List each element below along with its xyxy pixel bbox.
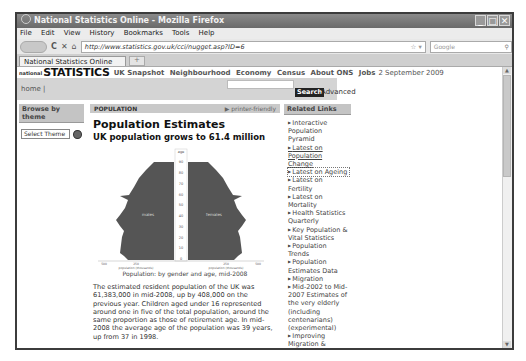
nav-about-ons[interactable]: About ONS	[311, 69, 354, 77]
females-area	[188, 162, 246, 260]
svg-text:80: 80	[179, 171, 183, 175]
related-link[interactable]: Population Trends	[288, 242, 349, 258]
svg-text:age: age	[178, 150, 185, 154]
related-link[interactable]: Interactive Population Pyramid	[288, 119, 349, 144]
related-link[interactable]: Population Estimates Data	[288, 258, 349, 274]
svg-text:500: 500	[101, 262, 107, 266]
home-icon[interactable]: ⌂	[72, 42, 77, 51]
related-link[interactable]: Latest on Population Change	[288, 144, 349, 169]
site-search-input[interactable]	[227, 80, 294, 89]
related-link[interactable]: Health Statistics Quarterly	[288, 209, 349, 225]
back-forward-button[interactable]	[20, 41, 47, 53]
menu-view[interactable]: View	[64, 29, 81, 37]
related-link[interactable]: Migration	[288, 275, 349, 283]
related-link[interactable]: Latest on Fertility	[288, 176, 349, 192]
svg-text:500: 500	[255, 262, 261, 266]
web-search-box[interactable]: Google ⚲	[430, 41, 512, 53]
url-bar[interactable]: http://www.statistics.gov.uk/cci/nugget.…	[81, 41, 426, 53]
title-bar: National Statistics Online - Mozilla Fir…	[17, 14, 512, 28]
scrollbar-thumb[interactable]	[503, 75, 511, 177]
window-title: National Statistics Online - Mozilla Fir…	[34, 16, 224, 25]
nav-neighbourhood[interactable]: Neighbourhood	[170, 69, 231, 77]
site-date: 2 September 2009	[378, 69, 443, 77]
theme-select[interactable]: Select Theme	[21, 129, 70, 139]
svg-text:0: 0	[180, 257, 182, 261]
chart-caption: Population: by gender and age, mid-2008	[90, 270, 280, 277]
browse-by-theme-heading: Browse by theme	[19, 104, 84, 123]
menu-tools[interactable]: Tools	[172, 29, 189, 37]
home-link[interactable]: home |	[21, 85, 45, 93]
bookmark-star-icon[interactable]: ☆ ▾	[411, 42, 425, 52]
reload-icon[interactable]: C	[51, 42, 57, 51]
population-pyramid-chart: age 908070 605040 302010 0 males females…	[96, 145, 266, 270]
menu-file[interactable]: File	[20, 29, 32, 37]
right-column: Related Links Interactive Population Pyr…	[284, 104, 351, 348]
printer-friendly-link[interactable]: ▶ printer-friendly	[225, 104, 276, 113]
page-subtitle: UK population grows to 61.4 million	[93, 132, 280, 142]
svg-text:30: 30	[179, 225, 183, 229]
search-placeholder: Google	[434, 42, 455, 52]
logo-small: national	[19, 70, 42, 76]
magnifier-icon[interactable]: ⚲	[505, 42, 511, 52]
svg-text:40: 40	[179, 214, 183, 218]
menu-history[interactable]: History	[90, 29, 115, 37]
tab-national-statistics[interactable]: National Statistics Online	[19, 56, 126, 66]
related-links-heading: Related Links	[284, 104, 351, 115]
menu-help[interactable]: Help	[199, 29, 215, 37]
stop-icon[interactable]: ✕	[61, 42, 68, 51]
males-area	[116, 162, 174, 260]
svg-text:70: 70	[179, 182, 183, 186]
navigation-toolbar: C ✕ ⌂ http://www.statistics.gov.uk/cci/n…	[17, 39, 512, 54]
new-tab-button[interactable]: +	[129, 56, 145, 66]
page-title: Population Estimates	[93, 118, 280, 131]
menu-bar: File Edit View History Bookmarks Tools H…	[17, 28, 512, 39]
site-header: national STATISTICS UK Snapshot Neighbou…	[17, 67, 503, 78]
site-nav: UK Snapshot Neighbourhood Economy Census…	[114, 69, 379, 77]
related-link[interactable]: Improving Migration & Population Statist…	[288, 332, 349, 348]
browser-window: National Statistics Online - Mozilla Fir…	[15, 12, 514, 350]
left-column: Browse by theme Select Theme	[19, 104, 84, 139]
svg-text:population (thousands): population (thousands)	[209, 266, 244, 270]
maximize-button[interactable]: □	[487, 15, 498, 26]
section-label: POPULATION	[94, 104, 137, 113]
minimize-button[interactable]: _	[475, 15, 486, 26]
svg-text:10: 10	[179, 246, 183, 250]
svg-text:females: females	[206, 212, 222, 217]
go-button[interactable]	[73, 130, 82, 139]
related-links-list: Interactive Population Pyramid Latest on…	[284, 115, 351, 348]
tab-bar: National Statistics Online +	[17, 54, 512, 67]
advanced-search-link[interactable]: Advanced	[321, 88, 356, 96]
nav-census[interactable]: Census	[277, 69, 305, 77]
body-paragraph: The estimated resident population of the…	[93, 283, 278, 341]
site-search-button[interactable]: Search	[295, 88, 324, 97]
svg-text:males: males	[142, 212, 154, 217]
svg-text:50: 50	[179, 203, 183, 207]
nav-uk-snapshot[interactable]: UK Snapshot	[114, 69, 165, 77]
related-link[interactable]: Key Population & Vital Statistics	[288, 226, 349, 242]
section-bar: POPULATION ▶ printer-friendly	[90, 104, 280, 113]
firefox-icon	[21, 14, 31, 24]
related-link[interactable]: Latest on Ageing	[288, 168, 349, 176]
menu-edit[interactable]: Edit	[41, 29, 55, 37]
main-column: POPULATION ▶ printer-friendly Population…	[90, 104, 280, 341]
related-link[interactable]: Mid-2002 to Mid-2007 Estimates of the ve…	[288, 283, 349, 332]
svg-text:population (thousands): population (thousands)	[119, 266, 154, 270]
svg-text:60: 60	[179, 193, 183, 197]
related-link[interactable]: Latest on Mortality	[288, 193, 349, 209]
nav-jobs[interactable]: Jobs	[359, 69, 376, 77]
page-content: national STATISTICS UK Snapshot Neighbou…	[17, 67, 503, 348]
svg-text:20: 20	[179, 236, 183, 240]
nav-economy[interactable]: Economy	[236, 69, 271, 77]
vertical-scrollbar[interactable]: ▲ ▼	[502, 67, 512, 348]
close-button[interactable]: ✕	[499, 15, 510, 26]
url-text: http://www.statistics.gov.uk/cci/nugget.…	[85, 42, 245, 52]
scroll-up-arrow-icon[interactable]: ▲	[503, 67, 511, 74]
menu-bookmarks[interactable]: Bookmarks	[124, 29, 163, 37]
svg-text:90: 90	[179, 160, 183, 164]
scroll-down-arrow-icon[interactable]: ▼	[503, 341, 511, 348]
